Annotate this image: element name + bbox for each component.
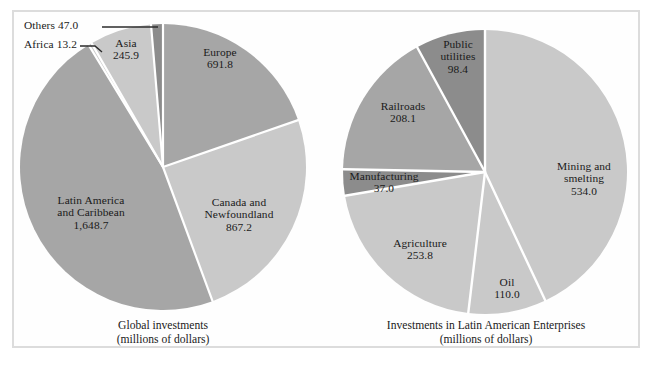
label-manufacturing-name: Manufacturing bbox=[350, 170, 419, 182]
label-agriculture-name: Agriculture bbox=[393, 237, 447, 249]
label-mining-name-2: smelting bbox=[540, 172, 628, 184]
label-latin-value: 1,648.7 bbox=[36, 219, 146, 231]
figure-container: Others 47.0 Africa 13.2 Asia 245.9 Europ… bbox=[0, 0, 656, 370]
label-latin-name-1: Latin America bbox=[58, 194, 125, 206]
label-utilities-value: 98.4 bbox=[425, 63, 491, 75]
label-asia-value: 245.9 bbox=[96, 49, 156, 61]
right-caption-sub: (millions of dollars) bbox=[381, 333, 591, 347]
label-agriculture-value: 253.8 bbox=[378, 249, 462, 261]
label-canada-value: 867.2 bbox=[184, 221, 294, 233]
left-pie-slices bbox=[20, 24, 306, 310]
label-mining-name-1: Mining and bbox=[557, 160, 611, 172]
label-europe-value: 691.8 bbox=[180, 58, 260, 70]
label-asia: Asia 245.9 bbox=[96, 37, 156, 62]
label-mining-smelting: Mining and smelting 534.0 bbox=[540, 160, 628, 197]
label-utilities-name-2: utilities bbox=[425, 50, 491, 62]
label-public-utilities: Public utilities 98.4 bbox=[425, 38, 491, 75]
left-caption-title: Global investments bbox=[118, 319, 208, 332]
label-oil-value: 110.0 bbox=[480, 288, 534, 300]
left-caption-sub: (millions of dollars) bbox=[83, 333, 243, 347]
label-agriculture: Agriculture 253.8 bbox=[378, 237, 462, 262]
label-canada: Canada and Newfoundland 867.2 bbox=[184, 196, 294, 233]
label-europe: Europe 691.8 bbox=[180, 46, 260, 71]
right-caption-title: Investments in Latin American Enterprise… bbox=[387, 319, 585, 332]
right-chart-caption: Investments in Latin American Enterprise… bbox=[381, 319, 591, 346]
label-canada-name-1: Canada and bbox=[212, 196, 266, 208]
label-canada-name-2: Newfoundland bbox=[184, 208, 294, 220]
label-railroads-name: Railroads bbox=[381, 100, 426, 112]
callout-others: Others 47.0 bbox=[24, 19, 78, 31]
label-mining-value: 534.0 bbox=[540, 185, 628, 197]
left-chart-caption: Global investments (millions of dollars) bbox=[83, 319, 243, 346]
label-railroads: Railroads 208.1 bbox=[364, 100, 442, 125]
label-latin-america: Latin America and Caribbean 1,648.7 bbox=[36, 194, 146, 231]
label-manufacturing: Manufacturing 37.0 bbox=[338, 170, 430, 195]
label-oil: Oil 110.0 bbox=[480, 276, 534, 301]
label-railroads-value: 208.1 bbox=[364, 112, 442, 124]
label-oil-name: Oil bbox=[500, 276, 515, 288]
label-manufacturing-value: 37.0 bbox=[338, 182, 430, 194]
label-asia-name: Asia bbox=[115, 37, 136, 49]
label-utilities-name-1: Public bbox=[443, 38, 473, 50]
callout-africa: Africa 13.2 bbox=[24, 38, 77, 50]
label-latin-name-2: and Caribbean bbox=[36, 206, 146, 218]
label-europe-name: Europe bbox=[203, 46, 237, 58]
